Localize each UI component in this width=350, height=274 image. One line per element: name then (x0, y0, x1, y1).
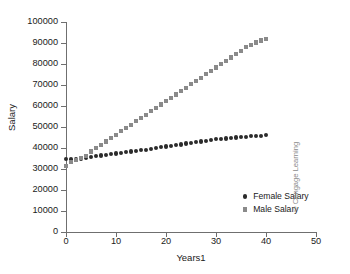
data-point-male-salary (139, 116, 143, 120)
data-point-male-salary (204, 72, 208, 76)
data-point-female-salary (159, 145, 163, 149)
data-point-female-salary (209, 138, 213, 142)
data-point-female-salary (184, 141, 188, 145)
data-point-male-salary (94, 146, 98, 150)
legend-marker-square-icon (243, 207, 247, 211)
data-point-female-salary (254, 134, 258, 138)
data-point-male-salary (64, 164, 68, 168)
data-point-male-salary (74, 158, 78, 162)
data-point-male-salary (119, 129, 123, 133)
data-point-female-salary (89, 155, 93, 159)
data-point-male-salary (129, 123, 133, 127)
data-point-male-salary (99, 143, 103, 147)
data-point-female-salary (234, 135, 238, 139)
data-point-male-salary (254, 40, 258, 44)
data-point-male-salary (174, 92, 178, 96)
legend-label-female-salary: Female Salary (253, 190, 308, 203)
data-point-female-salary (244, 135, 248, 139)
data-point-male-salary (134, 119, 138, 123)
data-point-female-salary (199, 139, 203, 143)
data-point-female-salary (169, 144, 173, 148)
copyright-credit: © Cengage Learning (291, 102, 300, 212)
data-point-female-salary (149, 147, 153, 151)
data-point-male-salary (219, 62, 223, 66)
data-point-female-salary (239, 135, 243, 139)
data-point-female-salary (124, 150, 128, 154)
data-point-female-salary (114, 151, 118, 155)
data-point-female-salary (214, 137, 218, 141)
data-point-female-salary (259, 134, 263, 138)
data-point-male-salary (184, 86, 188, 90)
data-point-male-salary (199, 76, 203, 80)
data-point-male-salary (214, 65, 218, 69)
data-point-female-salary (144, 148, 148, 152)
data-point-male-salary (154, 106, 158, 110)
data-point-female-salary (64, 157, 68, 161)
data-point-female-salary (179, 142, 183, 146)
data-point-female-salary (104, 153, 108, 157)
data-point-male-salary (229, 55, 233, 59)
data-point-male-salary (104, 139, 108, 143)
data-point-male-salary (114, 133, 118, 137)
data-point-female-salary (204, 139, 208, 143)
data-point-female-salary (129, 149, 133, 153)
data-point-male-salary (179, 89, 183, 93)
data-point-female-salary (224, 136, 228, 140)
data-point-male-salary (249, 43, 253, 47)
data-point-female-salary (164, 144, 168, 148)
data-point-male-salary (84, 154, 88, 158)
data-point-male-salary (69, 160, 73, 164)
data-point-female-salary (194, 140, 198, 144)
data-point-male-salary (234, 52, 238, 56)
data-point-male-salary (224, 59, 228, 63)
data-point-female-salary (249, 134, 253, 138)
data-point-female-salary (229, 136, 233, 140)
data-point-male-salary (144, 113, 148, 117)
data-point-male-salary (79, 156, 83, 160)
data-point-male-salary (149, 109, 153, 113)
data-point-female-salary (219, 137, 223, 141)
data-point-male-salary (259, 38, 263, 42)
legend-marker-circle-icon (243, 194, 247, 198)
data-point-male-salary (109, 136, 113, 140)
data-point-female-salary (119, 151, 123, 155)
chart-figure: 0100002000030000400005000060000700008000… (0, 0, 350, 274)
data-point-female-salary (109, 152, 113, 156)
data-point-male-salary (169, 96, 173, 100)
data-point-female-salary (174, 143, 178, 147)
data-point-male-salary (189, 82, 193, 86)
data-point-female-salary (99, 153, 103, 157)
data-point-male-salary (89, 149, 93, 153)
data-point-female-salary (139, 148, 143, 152)
y-axis-title: Salary (6, 88, 17, 148)
data-point-male-salary (244, 45, 248, 49)
data-point-male-salary (124, 126, 128, 130)
data-point-female-salary (134, 149, 138, 153)
data-point-female-salary (189, 141, 193, 145)
data-point-male-salary (264, 37, 268, 41)
data-point-male-salary (209, 69, 213, 73)
data-point-female-salary (264, 133, 268, 137)
data-point-female-salary (94, 154, 98, 158)
x-axis-title: Years1 (66, 252, 316, 263)
data-point-male-salary (164, 99, 168, 103)
data-point-male-salary (159, 102, 163, 106)
data-point-female-salary (154, 146, 158, 150)
data-point-male-salary (239, 49, 243, 53)
data-point-male-salary (194, 79, 198, 83)
